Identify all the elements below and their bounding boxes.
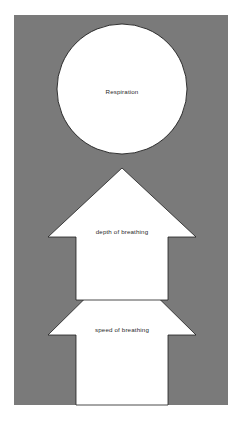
label-speed-of-breathing: speed of breathing bbox=[95, 326, 149, 333]
diagram-canvas: Respiration depth of breathing speed of … bbox=[0, 0, 242, 424]
label-depth-of-breathing: depth of breathing bbox=[96, 228, 149, 235]
respiration-diagram: Respiration depth of breathing speed of … bbox=[0, 0, 242, 424]
label-respiration: Respiration bbox=[106, 88, 139, 95]
